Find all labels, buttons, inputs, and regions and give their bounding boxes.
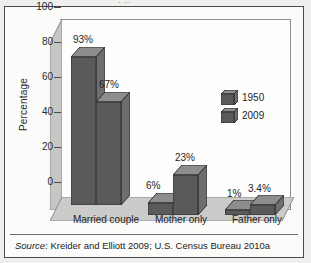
source-text: Kreider and Elliott 2009; U.S. Census Bu… [50,240,270,251]
bar-label-married-couple-1950: 93% [73,34,93,45]
legend-cube-icon [221,90,238,105]
bar-mother-only-2009[interactable] [173,165,207,215]
bar-label-father-only-2009: 3.4% [248,183,271,194]
legend-label-1950: 1950 [242,90,264,105]
legend-item-1950[interactable]: 1950 [221,89,293,105]
bar-label-married-couple-2009: 67% [99,79,119,90]
bar-label-mother-only-1950: 6% [146,180,160,191]
x-label-father-only: Father only [217,214,297,225]
bar-label-mother-only-2009: 23% [175,152,195,163]
bar-married-couple-2009[interactable] [96,92,130,205]
bar-father-only-2009[interactable] [250,195,284,215]
cropped-title-sliver: · ·· [118,0,170,4]
source-caption: Source: Kreider and Elliott 2009; U.S. C… [15,240,303,251]
x-label-mother-only: Mother only [141,214,221,225]
legend-cube-icon [221,108,238,123]
chart-legend: 1950 2009 [221,89,293,125]
bar-label-father-only-1950: 1% [227,188,241,199]
chart-plot-area: Percentage 100 80 60 40 20 0 [5,7,305,233]
figure-box: Percentage 100 80 60 40 20 0 [4,6,304,258]
caption-divider [10,234,298,235]
legend-label-2009: 2009 [242,108,264,123]
legend-item-2009[interactable]: 2009 [221,107,293,123]
x-label-married-couple: Married couple [62,214,150,225]
figure-page: · ·· Percentage 100 80 [0,0,311,263]
source-prefix: Source [15,240,45,251]
